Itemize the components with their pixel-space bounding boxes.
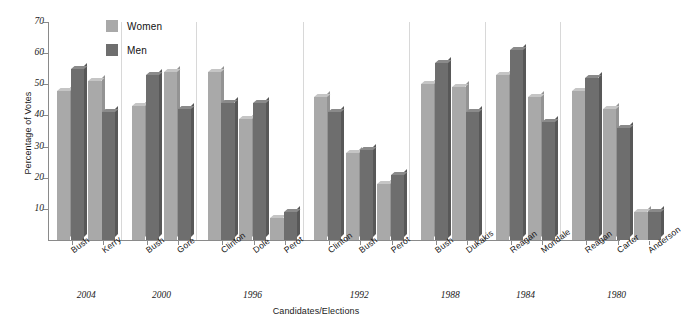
bar-face bbox=[585, 78, 598, 240]
group-year-2004: 2004 bbox=[77, 290, 96, 300]
bar-men-reagan-1980 bbox=[585, 78, 598, 240]
y-tick-label: 10 bbox=[35, 203, 45, 213]
group-separator bbox=[560, 22, 561, 240]
bar-face bbox=[617, 128, 630, 240]
x-axis-title: Candidates/Elections bbox=[0, 306, 632, 316]
bar-men-bush-2004 bbox=[71, 69, 84, 240]
group-year-2000: 2000 bbox=[152, 290, 171, 300]
bar-face bbox=[146, 75, 159, 240]
y-tick-label: 60 bbox=[35, 47, 45, 57]
bar-men-bush-1988 bbox=[435, 63, 448, 241]
bar-side bbox=[84, 63, 87, 237]
legend-swatch-men bbox=[106, 44, 118, 56]
bar-men-clinton-1992 bbox=[328, 112, 341, 240]
bar-face bbox=[391, 175, 404, 240]
y-tick-label: 40 bbox=[35, 109, 45, 119]
bar-women-perot-1996 bbox=[270, 218, 283, 240]
bar-top bbox=[435, 60, 452, 63]
y-tick-label: 30 bbox=[35, 141, 45, 151]
bar-women-gore-2000 bbox=[164, 72, 177, 240]
bar-face bbox=[164, 72, 177, 240]
y-axis-title: Percentage of Votes bbox=[23, 53, 33, 213]
group-year-1988: 1988 bbox=[441, 290, 460, 300]
bar-side bbox=[555, 116, 558, 237]
group-year-1992: 1992 bbox=[350, 290, 369, 300]
bar-face bbox=[377, 184, 390, 240]
chart-legend: WomenMen bbox=[106, 20, 226, 68]
bar-face bbox=[314, 97, 327, 240]
bar-face bbox=[221, 103, 234, 240]
bar-men-reagan-1984 bbox=[510, 50, 523, 240]
bar-face bbox=[253, 103, 266, 240]
bar-face bbox=[528, 97, 541, 240]
bar-face bbox=[102, 112, 115, 240]
bar-top bbox=[71, 66, 88, 69]
bar-side bbox=[341, 106, 344, 237]
bar-men-clinton-1996 bbox=[221, 103, 234, 240]
bar-women-perot-1992 bbox=[377, 184, 390, 240]
bar-side bbox=[599, 72, 602, 237]
bar-men-carter-1980 bbox=[617, 128, 630, 240]
group-year-1980: 1980 bbox=[607, 290, 626, 300]
y-tick-label: 70 bbox=[35, 16, 45, 26]
y-tick-label: 50 bbox=[35, 78, 45, 88]
bar-face bbox=[71, 69, 84, 240]
bar-women-carter-1980 bbox=[603, 109, 616, 240]
bar-men-dukakis-1988 bbox=[466, 112, 479, 240]
bar-side bbox=[235, 97, 238, 237]
group-year-1984: 1984 bbox=[516, 290, 535, 300]
bar-top bbox=[360, 147, 377, 150]
bar-face bbox=[603, 109, 616, 240]
bar-face bbox=[132, 106, 145, 240]
bar-face bbox=[421, 84, 434, 240]
bar-face bbox=[572, 91, 585, 240]
bar-top bbox=[542, 119, 559, 122]
group-separator bbox=[485, 22, 486, 240]
bar-top bbox=[208, 69, 225, 72]
legend-item-men: Men bbox=[106, 44, 226, 56]
bar-men-perot-1992 bbox=[391, 175, 404, 240]
bar-men-bush-1992 bbox=[360, 150, 373, 240]
bar-side bbox=[159, 69, 162, 237]
x-axis-labels: BushKerry2004BushGore2000ClintonDolePero… bbox=[49, 241, 621, 291]
bar-women-bush-1988 bbox=[421, 84, 434, 240]
bar-side bbox=[479, 106, 482, 237]
bar-men-kerry-2004 bbox=[102, 112, 115, 240]
legend-item-women: Women bbox=[106, 20, 226, 32]
bar-women-mondale-1984 bbox=[528, 97, 541, 240]
bar-men-dole-1996 bbox=[253, 103, 266, 240]
bar-side bbox=[115, 106, 118, 237]
bar-women-dole-1996 bbox=[239, 119, 252, 240]
bar-women-bush-1992 bbox=[346, 153, 359, 240]
bar-side bbox=[448, 57, 451, 238]
bar-women-dukakis-1988 bbox=[452, 87, 465, 240]
bar-side bbox=[373, 144, 376, 237]
y-tick-label: 20 bbox=[35, 172, 45, 182]
bar-face bbox=[466, 112, 479, 240]
legend-label: Women bbox=[127, 21, 162, 32]
bar-men-gore-2000 bbox=[178, 109, 191, 240]
group-separator bbox=[303, 22, 304, 240]
bar-face bbox=[435, 63, 448, 241]
bar-face bbox=[452, 87, 465, 240]
bar-top bbox=[528, 94, 545, 97]
bar-face bbox=[178, 109, 191, 240]
bar-face bbox=[88, 81, 101, 240]
bar-face bbox=[542, 122, 555, 240]
bar-face bbox=[360, 150, 373, 240]
bar-men-mondale-1984 bbox=[542, 122, 555, 240]
bar-face bbox=[346, 153, 359, 240]
bar-side bbox=[191, 103, 194, 237]
bar-women-reagan-1984 bbox=[496, 75, 509, 240]
bar-top bbox=[391, 172, 408, 175]
legend-swatch-women bbox=[106, 20, 118, 32]
bar-side bbox=[266, 97, 269, 237]
bar-side bbox=[523, 44, 526, 237]
group-year-1996: 1996 bbox=[243, 290, 262, 300]
bar-women-clinton-1996 bbox=[208, 72, 221, 240]
legend-label: Men bbox=[127, 45, 147, 56]
bar-face bbox=[239, 119, 252, 240]
bar-face bbox=[328, 112, 341, 240]
bar-side bbox=[630, 122, 633, 237]
